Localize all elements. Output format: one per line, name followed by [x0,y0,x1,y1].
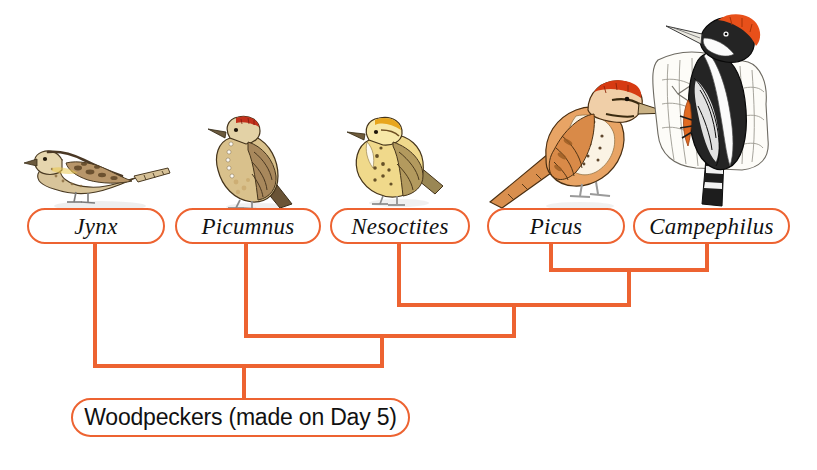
branch-picumnus-vertical [244,243,248,338]
taxon-label-picumnus: Picumnus [201,215,294,238]
taxon-box-campephilus[interactable]: Campephilus [633,208,790,244]
root-node-label: Woodpeckers (made on Day 5) [84,406,397,429]
branch-clade-nesoctites-stem [512,303,516,338]
root-stem [242,364,246,400]
branch-clade-picumnus-stem [380,334,384,368]
taxon-box-picumnus[interactable]: Picumnus [175,208,321,244]
branch-clade-picus-campephilus-stem [627,268,631,307]
taxon-box-picus[interactable]: Picus [487,208,625,244]
taxon-box-nesoctites[interactable]: Nesoctites [330,208,470,244]
taxon-label-campephilus: Campephilus [649,215,774,238]
branch-jynx-vertical [93,243,97,368]
bird-nesoctites-illustration [337,110,459,210]
bird-jynx-illustration [22,132,172,214]
taxon-label-nesoctites: Nesoctites [351,215,449,238]
bird-campephilus-illustration [644,8,794,213]
root-node-box[interactable]: Woodpeckers (made on Day 5) [71,398,410,437]
taxon-box-jynx[interactable]: Jynx [27,208,165,244]
taxon-label-jynx: Jynx [74,215,117,238]
bird-picumnus-illustration [196,112,316,214]
branch-nesoctites-vertical [397,243,401,307]
root-clade-bar [93,364,384,368]
taxon-label-picus: Picus [530,215,583,238]
cladogram-figure: Jynx Picumnus Nesoctites Picus Campephil… [0,0,817,470]
bird-picus-illustration [484,72,649,214]
